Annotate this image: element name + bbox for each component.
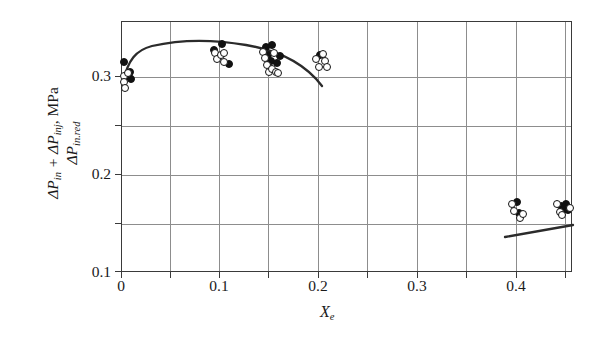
y-num-plus: + ΔP [44,135,61,172]
ytick-0.30 [115,76,121,77]
ytick-label-0.1: 0.1 [71,263,111,281]
y-axis-numerator: ΔPin + ΔPinj, MPa [45,85,64,201]
data-point-filled [120,58,128,66]
x-axis-title: Xe [320,303,334,322]
y-num-sub-in: in [52,172,63,180]
data-point-open [558,211,566,219]
ytick-0.25 [115,125,121,126]
ytick-label-0.2: 0.2 [71,165,111,183]
xtick-label-0.1: 0.1 [196,277,242,295]
y-den-sub: in.red [71,122,82,146]
y-num-sub-inj: inj [52,124,63,135]
data-point-open [315,63,323,71]
x-axis-symbol: X [320,303,330,320]
x-axis-subscript: e [330,311,335,322]
xtick-0.45 [565,272,566,278]
data-point-open [124,69,132,77]
ytick-0.10 [115,271,121,272]
figure-container: ΔPin + ΔPinj, MPa ΔPin.red [0,0,595,345]
y-axis-title-wrap: ΔPin + ΔPinj, MPa ΔPin.red [18,0,110,290]
data-point-open [519,210,527,218]
xtick-0.25 [367,272,368,278]
fit-curve-right [122,22,573,273]
ytick-0.15 [115,223,121,224]
ytick-label-0.3: 0.3 [71,67,111,85]
xtick-0.15 [268,272,269,278]
y-num-units: , MPa [44,87,61,124]
xtick-0.35 [466,272,467,278]
ytick-0.20 [115,174,121,175]
xtick-0.05 [170,272,171,278]
y-axis-title: ΔPin + ΔPinj, MPa ΔPin.red [29,23,99,263]
y-axis-denominator: ΔPin.red [64,85,83,201]
xtick-label-0.3: 0.3 [394,277,440,295]
data-point-open [566,204,574,212]
xtick-label-0.2: 0.2 [295,277,341,295]
plot-area [121,21,572,272]
xtick-label-0.4: 0.4 [493,277,539,295]
